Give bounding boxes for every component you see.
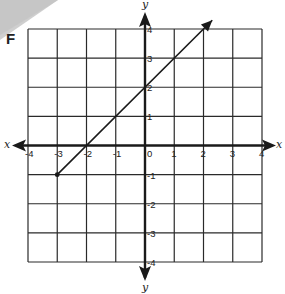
y-tick-label: 4 bbox=[147, 24, 152, 35]
line-endpoint-closed bbox=[55, 172, 60, 177]
y-tick-label: 3 bbox=[147, 53, 152, 64]
y-tick-label: -4 bbox=[147, 257, 155, 268]
x-tick-label: 0 bbox=[147, 148, 152, 159]
x-tick-label: 3 bbox=[230, 148, 235, 159]
x-tick-label: -1 bbox=[113, 148, 121, 159]
y-tick-label: -2 bbox=[147, 199, 155, 210]
y-axis-label-top: y bbox=[141, 0, 149, 11]
x-tick-label: 4 bbox=[259, 148, 264, 159]
x-tick-label: 1 bbox=[171, 148, 176, 159]
series-layer bbox=[55, 20, 212, 177]
x-tick-label: 2 bbox=[201, 148, 206, 159]
y-axis-label-bottom: y bbox=[141, 281, 149, 294]
coordinate-graph: F -4-3-2-101234-4-3-2-11234 x x y y bbox=[0, 0, 285, 294]
panel-label: F bbox=[6, 30, 15, 47]
x-tick-label: -3 bbox=[54, 148, 62, 159]
series-line bbox=[57, 20, 212, 174]
x-axis-label-right: x bbox=[276, 138, 283, 151]
x-axis-label-left: x bbox=[4, 138, 11, 151]
y-tick-label: 1 bbox=[147, 111, 152, 122]
y-tick-label: -1 bbox=[147, 170, 155, 181]
x-tick-label: -2 bbox=[84, 148, 92, 159]
axes bbox=[12, 12, 276, 281]
x-tick-label: -4 bbox=[25, 148, 33, 159]
y-tick-label: -3 bbox=[147, 228, 155, 239]
